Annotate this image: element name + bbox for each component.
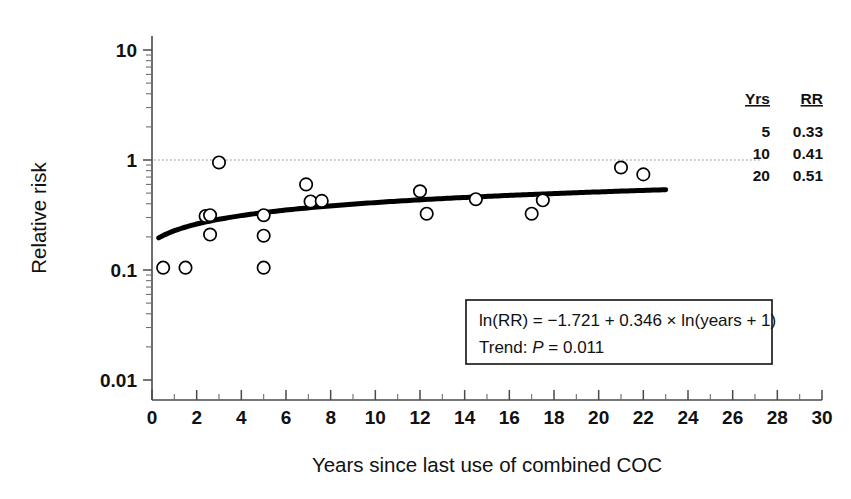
- data-point: [525, 207, 537, 219]
- legend-cell-rr: 0.33: [793, 123, 824, 140]
- x-tick-label: 4: [236, 407, 247, 428]
- legend-cell-rr: 0.41: [793, 145, 824, 162]
- x-tick-label: 22: [633, 407, 654, 428]
- x-axis-title: Years since last use of combined COC: [312, 453, 662, 476]
- legend-header-years: Yrs: [745, 90, 770, 107]
- x-tick-label: 24: [677, 407, 699, 428]
- legend-cell-rr: 0.51: [793, 167, 824, 184]
- data-point: [257, 230, 269, 242]
- data-point: [537, 194, 549, 206]
- x-tick-label: 16: [499, 407, 520, 428]
- data-point: [157, 261, 169, 273]
- equation-annotation-box: ln(RR) = −1.721 + 0.346 × ln(years + 1) …: [466, 300, 776, 364]
- legend-cell-years: 20: [753, 167, 770, 184]
- equation-line-1: ln(RR) = −1.721 + 0.346 × ln(years + 1): [479, 311, 776, 330]
- data-point: [300, 178, 312, 190]
- data-point: [637, 168, 649, 180]
- chart-canvas: 0.010.1110 024681012141618202224262830 Y…: [0, 0, 851, 499]
- y-tick-label: 0.1: [111, 260, 138, 281]
- x-tick-label: 28: [767, 407, 788, 428]
- data-point: [257, 261, 269, 273]
- data-point: [615, 161, 627, 173]
- data-point: [316, 195, 328, 207]
- y-tick-label: 0.01: [100, 370, 137, 391]
- x-tick-label: 0: [147, 407, 158, 428]
- x-tick-label: 2: [191, 407, 202, 428]
- y-tick-label: 1: [126, 150, 137, 171]
- p-value-symbol: P: [532, 338, 544, 357]
- x-tick-label: 8: [325, 407, 336, 428]
- legend-cell-years: 5: [761, 123, 770, 140]
- data-point: [204, 228, 216, 240]
- equation-line-2: Trend: P = 0.011: [479, 338, 604, 357]
- x-tick-label: 18: [543, 407, 564, 428]
- x-tick-label: 12: [409, 407, 430, 428]
- relative-risk-scatter-figure: 0.010.1110 024681012141618202224262830 Y…: [0, 0, 851, 499]
- data-point: [204, 209, 216, 221]
- trend-prefix: Trend:: [479, 338, 532, 357]
- data-point: [213, 156, 225, 168]
- data-point: [414, 185, 426, 197]
- x-tick-label: 26: [722, 407, 743, 428]
- y-tick-label: 10: [116, 40, 137, 61]
- legend-header-rr: RR: [801, 90, 823, 107]
- x-tick-label: 10: [365, 407, 386, 428]
- data-point: [179, 261, 191, 273]
- x-tick-label: 30: [811, 407, 832, 428]
- x-tick-label: 6: [281, 407, 292, 428]
- x-tick-label: 20: [588, 407, 609, 428]
- y-axis-title: Relative risk: [27, 161, 50, 273]
- data-point: [421, 207, 433, 219]
- data-point: [470, 193, 482, 205]
- x-tick-label: 14: [454, 407, 476, 428]
- p-value-number: = 0.011: [544, 338, 605, 357]
- data-point: [257, 209, 269, 221]
- legend-cell-years: 10: [753, 145, 770, 162]
